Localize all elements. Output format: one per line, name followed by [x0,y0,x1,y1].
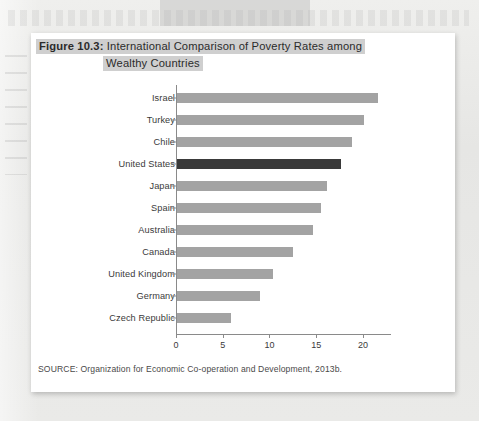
figure-title-text-1: International Comparison of Poverty Rate… [107,40,362,52]
x-axis-tick-label: 5 [220,340,225,350]
x-axis-tick [316,334,317,338]
bar-row-label: United Kingdom [108,269,175,279]
y-axis-tick [171,252,176,253]
y-axis-tick [171,274,176,275]
scan-ghost-block [160,0,310,26]
figure-title: Figure 10.3: International Comparison of… [36,38,446,72]
bar-row: Chile [31,131,455,153]
bar-row: Australia [31,219,455,241]
bar-row: Turkey [31,109,455,131]
bar [177,203,321,213]
figure-title-line-2: Wealthy Countries [103,55,446,72]
y-axis-tick [171,230,176,231]
source-note: SOURCE: Organization for Economic Co-ope… [38,364,342,374]
x-axis-tick-label: 20 [358,340,368,350]
bar [177,181,327,191]
figure-number-label: Figure 10.3: [39,40,104,52]
bar [177,159,341,169]
figure-title-line-1: Figure 10.3: International Comparison of… [36,38,446,55]
x-axis-tick [269,334,270,338]
bar [177,137,352,147]
scan-margin-marks [5,55,27,175]
bar-row: Germany [31,285,455,307]
bar-row-label: United States [119,159,175,169]
y-axis-tick [171,120,176,121]
bar-row: United Kingdom [31,263,455,285]
y-axis-tick [171,296,176,297]
x-axis-tick-label: 0 [173,340,178,350]
y-axis-tick [171,142,176,143]
x-axis-tick [363,334,364,338]
bar [177,247,293,257]
y-axis-tick [171,164,176,165]
x-axis-tick-label: 15 [311,340,321,350]
bar-row: Czech Republic [31,307,455,329]
y-axis-tick [171,98,176,99]
bar-chart-plot-area: IsraelTurkeyChileUnited StatesJapanSpain… [31,85,455,350]
bar [177,93,378,103]
bar-row-label: Australia [138,225,175,235]
bar [177,115,364,125]
bar-row: United States [31,153,455,175]
bar-row: Canada [31,241,455,263]
figure-title-text-2: Wealthy Countries [103,56,203,71]
y-axis-tick [171,208,176,209]
y-axis-tick [171,186,176,187]
bar-row: Japan [31,175,455,197]
x-axis-tick-label: 10 [264,340,274,350]
bar-row: Israel [31,87,455,109]
figure-card: Figure 10.3: International Comparison of… [31,33,455,392]
x-axis-tick [223,334,224,338]
bar-row: Spain [31,197,455,219]
y-axis-tick [171,318,176,319]
bar [177,291,260,301]
bar [177,269,273,279]
bar [177,313,231,323]
x-axis-line [176,334,391,335]
bar-row-label: Germany [137,291,175,301]
bar-row-label: Czech Republic [109,313,175,323]
x-axis-tick [176,334,177,338]
bar [177,225,313,235]
